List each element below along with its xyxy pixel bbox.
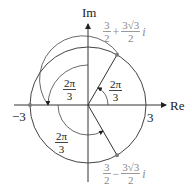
im-axis-label: Im [82,6,96,19]
tick-pos-three: 3 [147,111,154,124]
arc-first [98,88,108,105]
diagram-graphics [0,0,192,196]
complex-plane-diagram: Im Re −3 3 2π 3 2π 3 2π 3 32 + 3√32 i 32… [0,0,192,196]
angle-label-third: 2π 3 [55,131,68,155]
arc-second [40,36,118,105]
point-neg-three [28,103,32,107]
point-upper [115,53,119,57]
radius-lower [88,105,117,155]
tick-neg-three: −3 [12,110,26,123]
angle-label-second: 2π 3 [63,78,76,102]
angle-label-first: 2π 3 [109,79,122,103]
point-lower-label: 32 − 3√32 i [103,162,146,186]
re-axis-label: Re [170,99,184,112]
point-upper-label: 32 + 3√32 i [103,20,146,44]
point-lower [115,153,119,157]
